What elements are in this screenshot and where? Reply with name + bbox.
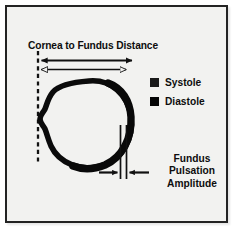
legend-label-diastole: Diastole	[165, 96, 205, 107]
fundus-pulsation-amplitude-label: Fundus Pulsation Amplitude	[153, 153, 231, 190]
legend: Systole Diastole	[150, 75, 205, 113]
fpa-label-line-1: Fundus	[153, 153, 231, 165]
legend-swatch-diastole	[150, 97, 159, 106]
legend-item-systole: Systole	[150, 75, 205, 90]
legend-swatch-systole	[150, 78, 159, 87]
legend-item-diastole: Diastole	[150, 94, 205, 109]
legend-label-systole: Systole	[165, 77, 201, 88]
figure-frame: Cornea to Fundus Distance Systole Diasto…	[5, 5, 228, 223]
eye-globe-posterior-thick	[73, 83, 131, 169]
fpa-label-line-3: Amplitude	[153, 178, 231, 190]
figure-root: Cornea to Fundus Distance Systole Diasto…	[0, 0, 235, 235]
fpa-label-line-2: Pulsation	[153, 165, 231, 177]
page-title: Cornea to Fundus Distance	[28, 40, 158, 51]
